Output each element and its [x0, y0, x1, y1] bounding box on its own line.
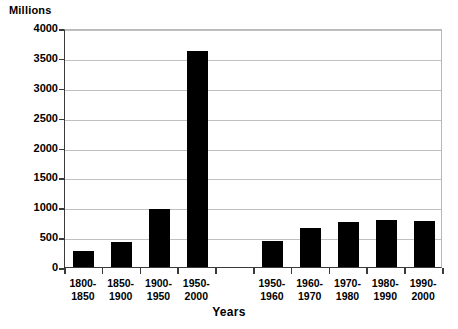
x-axis-tick-mark [291, 268, 293, 274]
x-axis-category-label-line: 1950- [253, 277, 291, 290]
x-axis-title: Years [0, 305, 458, 319]
y-axis-tick-label: 4000 [0, 22, 58, 34]
gridline [65, 60, 441, 61]
x-axis-category-label: 1990-2000 [404, 277, 442, 303]
x-axis-category-label-line: 1900 [102, 290, 140, 303]
gridline [65, 90, 441, 91]
y-axis-tick-label: 2000 [0, 142, 58, 154]
x-axis-tick-mark [215, 268, 217, 274]
x-axis-category-label-line: 1990- [404, 277, 442, 290]
bar-chart: Millions 0500100015002000250030003500400… [0, 0, 458, 329]
x-axis-category-label-line: 1900- [140, 277, 178, 290]
bar [262, 241, 283, 267]
y-axis-title: Millions [9, 4, 52, 16]
x-axis-tick-mark [177, 268, 179, 274]
gridline [65, 150, 441, 151]
bar [111, 242, 132, 267]
x-axis-category-label: 1960-1970 [291, 277, 329, 303]
x-axis-category-label-line: 1980 [329, 290, 367, 303]
x-axis-category-label: 1950-1960 [253, 277, 291, 303]
x-axis-category-label-line: 1960 [253, 290, 291, 303]
x-axis-category-label: 1900-1950 [140, 277, 178, 303]
x-axis-tick-mark [366, 268, 368, 274]
x-axis-category-label: 1800-1850 [64, 277, 102, 303]
bar [338, 222, 359, 267]
y-axis-tick-label: 500 [0, 231, 58, 243]
x-axis-category-label: 1970-1980 [329, 277, 367, 303]
x-axis-tick-mark [404, 268, 406, 274]
y-axis-tick-label: 1500 [0, 171, 58, 183]
x-axis-category-label-line: 1990 [366, 290, 404, 303]
y-axis-tick-label: 0 [0, 261, 58, 273]
x-axis-category-label-line: 2000 [177, 290, 215, 303]
x-axis-category-label-line: 1850 [64, 290, 102, 303]
gridline [65, 30, 441, 31]
x-axis-category-label-line: 2000 [404, 290, 442, 303]
bar [414, 221, 435, 267]
gridline [65, 120, 441, 121]
x-axis-category-label: 1950-2000 [177, 277, 215, 303]
x-axis-category-label-line: 1970- [329, 277, 367, 290]
x-axis-tick-mark [329, 268, 331, 274]
bar [187, 51, 208, 267]
y-axis-tick-label: 2500 [0, 112, 58, 124]
x-axis-category-label: 1980-1990 [366, 277, 404, 303]
bar [149, 209, 170, 267]
x-axis-category-label-line: 1980- [366, 277, 404, 290]
x-axis-tick-mark [64, 268, 66, 274]
gridline [65, 209, 441, 210]
x-axis-category-label-line: 1800- [64, 277, 102, 290]
y-axis-tick-label: 3000 [0, 82, 58, 94]
x-axis-category-label-line: 1970 [291, 290, 329, 303]
x-axis-category-label: 1850-1900 [102, 277, 140, 303]
x-axis-category-label-line: 1950 [140, 290, 178, 303]
plot-area [64, 29, 442, 268]
bar [300, 228, 321, 267]
y-axis-tick-label: 1000 [0, 201, 58, 213]
x-axis-category-label-line: 1960- [291, 277, 329, 290]
x-axis-category-label-line: 1950- [177, 277, 215, 290]
x-axis-tick-mark [253, 268, 255, 274]
y-axis-tick-label: 3500 [0, 52, 58, 64]
bar [376, 220, 397, 267]
x-axis-tick-mark [140, 268, 142, 274]
bar [73, 251, 94, 267]
x-axis-category-label-line: 1850- [102, 277, 140, 290]
x-axis-tick-mark [442, 268, 444, 274]
x-axis-tick-mark [102, 268, 104, 274]
gridline [65, 179, 441, 180]
